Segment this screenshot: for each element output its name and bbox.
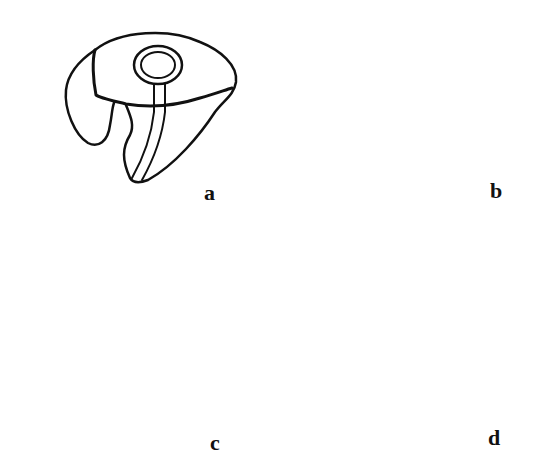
panel-label-a: a	[204, 182, 215, 204]
panel-label-b: b	[490, 180, 502, 202]
panel-a-drawing	[66, 33, 236, 182]
figure-canvas	[0, 0, 535, 474]
panel-label-c: c	[210, 432, 220, 454]
panel-label-d: d	[488, 427, 500, 449]
